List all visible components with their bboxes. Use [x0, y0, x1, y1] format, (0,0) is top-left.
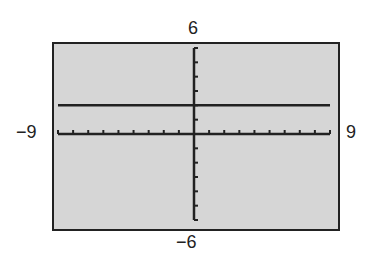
plot-area: [0, 0, 366, 278]
